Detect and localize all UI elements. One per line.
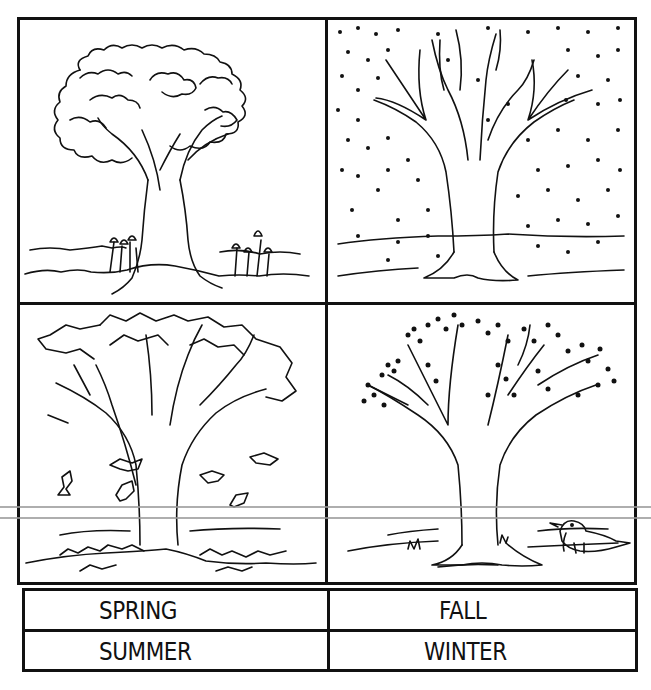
label-summer: SUMMER (99, 639, 191, 664)
winter-tree-illustration (328, 20, 634, 302)
panel-spring-tree (328, 305, 634, 582)
scan-artifact-line (0, 517, 651, 519)
panel-winter-tree (328, 20, 634, 302)
spring-tree-illustration (328, 305, 634, 582)
scan-artifact-line (0, 506, 651, 508)
season-label-table: SPRING FALL SUMMER WINTER (22, 588, 638, 672)
label-fall: FALL (439, 598, 486, 623)
label-table-horizontal-divider (25, 629, 635, 632)
label-spring: SPRING (99, 598, 177, 623)
panel-summer-tree (20, 20, 325, 302)
fall-tree-illustration (20, 305, 325, 582)
panel-fall-tree (20, 305, 325, 582)
season-worksheet: SPRING FALL SUMMER WINTER (0, 0, 651, 690)
label-winter: WINTER (424, 639, 507, 664)
summer-tree-illustration (20, 20, 325, 302)
picture-grid (17, 17, 637, 585)
